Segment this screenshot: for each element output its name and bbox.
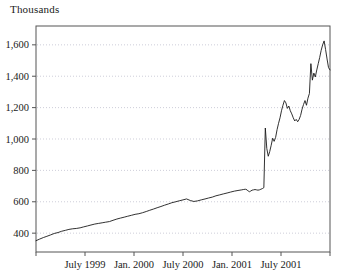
x-axis-tick-label: July 1999 bbox=[64, 259, 105, 270]
gridlines bbox=[37, 45, 329, 233]
x-axis-tick-label: Jan. 2001 bbox=[212, 259, 252, 270]
y-axis-ticks bbox=[32, 45, 36, 233]
y-axis-tick-label: 600 bbox=[13, 196, 29, 207]
x-axis-tick-label: July 2001 bbox=[260, 259, 301, 270]
y-axis-tick-label: 1,600 bbox=[5, 39, 29, 50]
y-axis-tick-labels: 4006008001,0001,2001,4001,600 bbox=[5, 39, 29, 238]
x-axis-ticks bbox=[36, 252, 330, 256]
x-axis-tick-labels: July 1999Jan. 2000July 2000Jan. 2001July… bbox=[64, 259, 301, 270]
line-chart-plot: 4006008001,0001,2001,4001,600 July 1999J… bbox=[0, 0, 343, 280]
y-axis-tick-label: 1,400 bbox=[5, 71, 29, 82]
y-axis-tick-label: 1,200 bbox=[5, 102, 29, 113]
y-axis-tick-label: 400 bbox=[13, 228, 29, 239]
plot-frame bbox=[36, 26, 330, 252]
x-axis-tick-label: Jan. 2000 bbox=[114, 259, 154, 270]
y-axis-tick-label: 1,000 bbox=[5, 134, 29, 145]
y-axis-tick-label: 800 bbox=[13, 165, 29, 176]
chart-container: Thousands 4006008001,0001,2001,4001,600 … bbox=[0, 0, 343, 280]
data-series-thousands bbox=[36, 41, 330, 241]
x-axis-tick-label: July 2000 bbox=[162, 259, 203, 270]
